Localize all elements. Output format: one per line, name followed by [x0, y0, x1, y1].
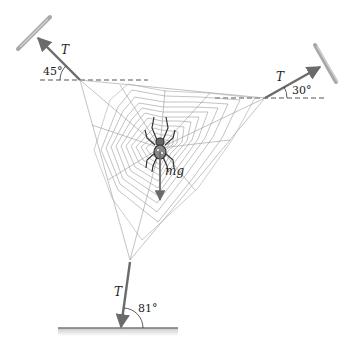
tension-arrow-bottom	[121, 262, 130, 327]
label-tension-top-left: T	[61, 43, 70, 57]
label-angle-bottom: 81°	[138, 302, 158, 315]
label-angle-top-right: 30°	[292, 84, 312, 97]
mount-top-right	[315, 45, 338, 82]
ground	[58, 328, 178, 336]
label-tension-top-right: T	[276, 70, 285, 84]
label-tension-bottom: T	[114, 285, 123, 299]
angle-arc-top-right	[284, 87, 287, 98]
label-angle-top-left: 45°	[43, 65, 63, 78]
label-weight: mg	[165, 164, 184, 178]
spider-web-force-diagram: T 45° T 30° T 81° mg	[0, 0, 352, 348]
